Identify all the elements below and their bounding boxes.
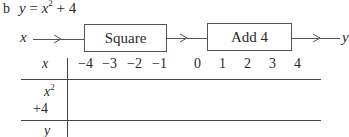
x-value: −1	[152, 56, 167, 72]
equation-lhs: y	[19, 0, 26, 16]
equation-equals: =	[29, 0, 37, 16]
table-header-x: x	[42, 56, 48, 72]
arrow-right-icon	[179, 33, 189, 43]
row-label-x-squared: x2	[44, 82, 55, 100]
add-four-box: Add 4	[207, 23, 292, 51]
row-label-exponent: 2	[50, 82, 55, 92]
table-vertical-divider	[67, 58, 68, 137]
square-box: Square	[84, 24, 167, 52]
x-value: −3	[102, 56, 117, 72]
equation: y = x2 + 4	[19, 0, 76, 17]
x-value: −4	[78, 56, 93, 72]
add-four-box-label: Add 4	[231, 29, 268, 45]
x-value: 3	[269, 56, 276, 72]
x-value: 1	[219, 56, 226, 72]
arrow-right-icon	[53, 34, 63, 44]
row-label-y: y	[44, 123, 50, 137]
flow-input-label: x	[20, 29, 27, 46]
equation-rest: + 4	[57, 0, 77, 16]
row-label-plus-four: +4	[33, 101, 48, 117]
arrow-right-icon	[312, 33, 322, 43]
x-value: 0	[194, 56, 201, 72]
part-label: b	[3, 1, 10, 17]
table-header-rule	[21, 79, 321, 80]
table-total-rule	[21, 120, 321, 121]
x-value: −2	[127, 56, 142, 72]
x-value: 4	[294, 56, 301, 72]
equation-exponent: 2	[48, 0, 53, 8]
x-value: 2	[244, 56, 251, 72]
square-box-label: Square	[105, 30, 147, 46]
flow-output-label: y	[342, 29, 349, 46]
